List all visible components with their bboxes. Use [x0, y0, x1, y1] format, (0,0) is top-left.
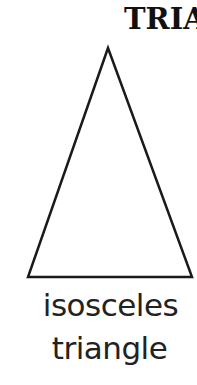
- caption-line-2: triangle: [11, 331, 197, 365]
- isosceles-triangle-figure: [0, 0, 197, 385]
- caption-line-1: isosceles: [12, 288, 197, 322]
